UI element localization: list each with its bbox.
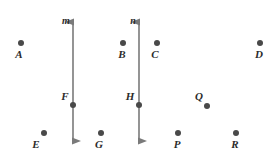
point-dot-h[interactable] [136,102,142,108]
point-label-d: D [255,49,263,60]
point-label-f: F [61,91,68,102]
point-label-c: C [151,49,158,60]
point-dot-g[interactable] [98,130,104,136]
point-dot-r[interactable] [233,130,239,136]
point-dot-p[interactable] [175,130,181,136]
point-dot-c[interactable] [154,40,160,46]
point-dot-f[interactable] [70,102,76,108]
point-label-q: Q [195,91,203,102]
point-label-h: H [126,91,135,102]
point-label-e: E [32,139,39,150]
point-label-b: B [118,49,125,60]
line-label-m: m [62,16,70,26]
point-dot-d[interactable] [257,40,263,46]
line-label-n: n [130,16,136,26]
point-dot-q[interactable] [204,103,210,109]
point-label-r: R [231,139,238,150]
point-dot-a[interactable] [18,40,24,46]
point-label-g: G [95,139,103,150]
point-label-p: P [174,139,181,150]
point-label-a: A [15,49,22,60]
point-dot-b[interactable] [120,40,126,46]
geometry-figure: m n A B C D F H Q E G P R [0,0,277,156]
point-dot-e[interactable] [41,130,47,136]
